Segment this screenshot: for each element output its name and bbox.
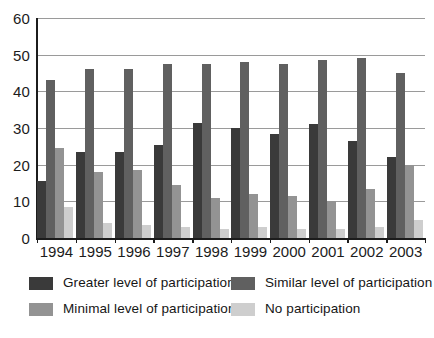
bar [258,227,267,238]
x-tick-label: 2001 [311,243,344,261]
y-tick-label: 40 [13,84,30,99]
bar-group [154,18,192,238]
legend-swatch [231,303,255,316]
plot-area: 0102030405060 19941995199619971998199920… [0,0,434,262]
x-tick-label: 2003 [389,243,422,261]
bar [405,165,414,238]
bar-group [231,18,269,238]
x-tick-label: 1997 [156,243,189,261]
bar [348,141,357,238]
y-tick-label: 60 [13,11,30,26]
bar [309,124,318,238]
y-tick-label: 0 [21,231,30,246]
legend-swatch [231,277,255,290]
bar [270,134,279,239]
bar-group [387,18,425,238]
y-tick-label: 20 [13,157,30,172]
legend-label: No participation [265,302,360,316]
bar [387,157,396,238]
bar [124,69,133,238]
legend-label: Similar level of participation [265,276,432,290]
bar [318,60,327,238]
bar-group [76,18,114,238]
bar [142,225,151,238]
x-tick-label: 1994 [40,243,73,261]
legend-item[interactable]: No participation [231,302,360,316]
bar [336,229,345,238]
bar [297,229,306,238]
y-tick-label: 10 [13,194,30,209]
bar [85,69,94,238]
chart-legend: Greater level of participationSimilar le… [0,272,434,334]
bar [327,201,336,238]
bar-group [37,18,75,238]
bar [46,80,55,238]
bar [220,229,229,238]
bar-group [270,18,308,238]
legend-label: Minimal level of participation [63,302,236,316]
bar-chart: 0102030405060 19941995199619971998199920… [0,0,434,338]
bar [231,128,240,238]
y-axis-tick-labels: 0102030405060 [0,0,34,238]
legend-item[interactable]: Greater level of participation [29,276,235,290]
bar [414,220,423,238]
x-tick-label: 1998 [195,243,228,261]
legend-swatch [29,303,53,316]
bar-group [348,18,386,238]
bar [249,194,258,238]
bar [37,181,46,238]
x-tick-label: 1999 [234,243,267,261]
bar [193,123,202,239]
bar [288,196,297,238]
bar [279,64,288,238]
x-tick-label: 1996 [117,243,150,261]
x-axis-tick-labels: 1994199519961997199819992000200120022003 [37,243,425,265]
y-tick-label: 50 [13,47,30,62]
bar [375,227,384,238]
bar [396,73,405,238]
bar [64,207,73,238]
bar [115,152,124,238]
bar-group [309,18,347,238]
legend-label: Greater level of participation [63,276,235,290]
x-tick-label: 2000 [273,243,306,261]
bar [240,62,249,238]
bar [202,64,211,238]
bar [211,198,220,238]
bar [154,145,163,239]
legend-item[interactable]: Minimal level of participation [29,302,236,316]
bar [366,189,375,239]
bar-group [193,18,231,238]
legend-item[interactable]: Similar level of participation [231,276,432,290]
bar [163,64,172,238]
y-tick-label: 30 [13,121,30,136]
legend-swatch [29,277,53,290]
bar [133,170,142,238]
bar-group [115,18,153,238]
bar-groups [37,18,425,238]
bar [94,172,103,238]
x-tick-label: 2002 [350,243,383,261]
bar [55,148,64,238]
x-tick-label: 1995 [79,243,112,261]
x-tick [425,238,426,243]
bar [103,223,112,238]
bar [172,185,181,238]
bar [357,58,366,238]
bar [76,152,85,238]
bar [181,227,190,238]
